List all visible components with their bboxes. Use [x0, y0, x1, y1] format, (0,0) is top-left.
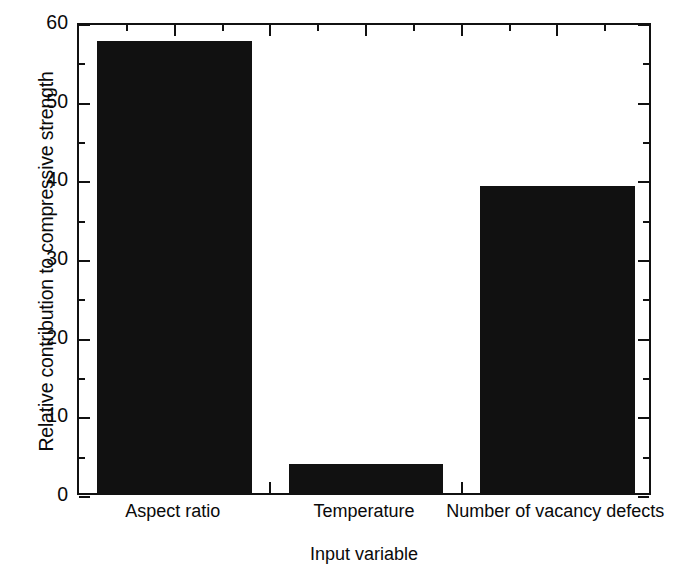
bar-series	[79, 25, 649, 493]
bar-chart-figure: Relative contribution to compressive str…	[0, 0, 685, 584]
bar	[97, 41, 252, 493]
bar	[289, 464, 444, 493]
plot-area	[77, 23, 651, 495]
y-axis-tick-label: 10	[28, 406, 68, 426]
y-axis-tick-label: 60	[28, 13, 68, 33]
x-axis-tick-labels: Aspect ratioTemperatureNumber of vacancy…	[77, 501, 651, 531]
y-axis-tick	[638, 496, 649, 498]
y-axis-tick-label: 20	[28, 328, 68, 348]
bar	[480, 186, 635, 493]
y-axis-tick-label: 30	[28, 249, 68, 269]
x-axis-tick-label: Number of vacancy defects	[446, 501, 664, 522]
y-axis-tick-label: 0	[28, 485, 68, 505]
y-axis-tick-label: 50	[28, 92, 68, 112]
x-axis-tick-label: Temperature	[313, 501, 414, 522]
y-axis-tick-label: 40	[28, 170, 68, 190]
y-axis-tick-labels: 0102030405060	[22, 23, 68, 495]
y-axis-tick	[79, 496, 90, 498]
x-axis-tick-label: Aspect ratio	[125, 501, 220, 522]
x-axis-title: Input variable	[77, 544, 651, 565]
